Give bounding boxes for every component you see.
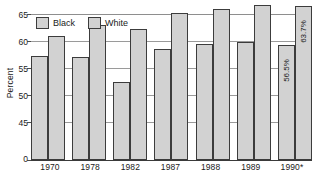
- x-tick-1978: 1978: [71, 162, 109, 176]
- legend-swatch-white: [88, 17, 101, 29]
- legend-swatch-black: [36, 17, 49, 29]
- y-tick-55: 55: [0, 65, 28, 74]
- x-axis-line: [31, 160, 312, 161]
- bar-group-1978: [72, 14, 106, 160]
- bar-black-1987[interactable]: [154, 49, 171, 160]
- chart-legend: Black White: [36, 17, 128, 29]
- bar-white-1989[interactable]: [254, 5, 271, 160]
- bar-chart: Percent 65 60 55 50 45 0: [0, 0, 313, 183]
- legend-item-black[interactable]: Black: [36, 17, 75, 29]
- y-tick-65: 65: [0, 11, 28, 20]
- x-tick-1989: 1989: [232, 162, 270, 176]
- legend-item-white[interactable]: White: [88, 17, 128, 29]
- bar-white-1982[interactable]: [130, 29, 147, 160]
- y-tick-50: 50: [0, 92, 28, 101]
- y-tick-0: 0: [0, 155, 28, 164]
- bar-black-1990[interactable]: 56.5%: [278, 45, 295, 160]
- legend-label-white: White: [105, 18, 128, 28]
- bar-group-1982: [113, 14, 147, 160]
- bar-black-1982[interactable]: [113, 82, 130, 160]
- y-axis-tick-labels: 65 60 55 50 45 0: [0, 0, 28, 183]
- x-tick-1982: 1982: [111, 162, 149, 176]
- bar-group-1989: [237, 14, 271, 160]
- legend-label-black: Black: [53, 18, 75, 28]
- x-tick-1990: 1990*: [272, 162, 312, 176]
- bar-group-1987: [154, 14, 188, 160]
- x-tick-1988: 1988: [192, 162, 230, 176]
- bar-black-1989[interactable]: [237, 42, 254, 160]
- bar-black-1988[interactable]: [196, 44, 213, 160]
- bar-white-1990[interactable]: 63.7%: [295, 6, 312, 160]
- bar-white-1970[interactable]: [48, 36, 65, 160]
- x-tick-1970: 1970: [31, 162, 69, 176]
- bar-white-1988[interactable]: [213, 9, 230, 160]
- bar-group-1990: 56.5% 63.7%: [278, 14, 312, 160]
- x-axis-tick-labels: 1970 1978 1982 1987 1988 1989 1990*: [31, 162, 312, 176]
- plot-area: 56.5% 63.7%: [31, 14, 312, 160]
- bar-black-1970[interactable]: [31, 56, 48, 160]
- bar-group-1970: [31, 14, 65, 160]
- bar-group-1988: [196, 14, 230, 160]
- bar-groups: 56.5% 63.7%: [31, 14, 312, 160]
- bar-black-1978[interactable]: [72, 57, 89, 160]
- y-tick-45: 45: [0, 119, 28, 128]
- x-tick-1987: 1987: [151, 162, 189, 176]
- y-tick-60: 60: [0, 38, 28, 47]
- bar-white-1978[interactable]: [89, 25, 106, 160]
- bar-white-1987[interactable]: [171, 13, 188, 160]
- chart-title-clipped: [0, 0, 313, 2]
